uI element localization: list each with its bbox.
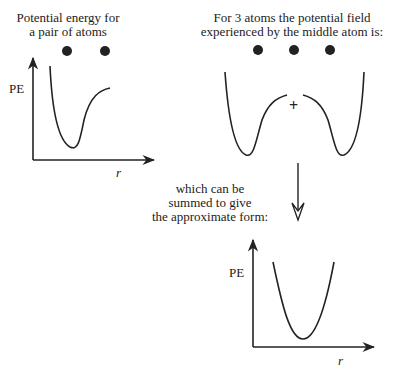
double-well-right-curve bbox=[303, 72, 364, 155]
pair-potential-curve bbox=[50, 66, 110, 148]
atom-icon bbox=[100, 46, 110, 56]
pair-atoms bbox=[62, 46, 110, 56]
diagram-graphics bbox=[0, 0, 397, 374]
atom-icon bbox=[253, 45, 263, 55]
atom-icon bbox=[325, 45, 335, 55]
double-well-left-curve bbox=[225, 72, 287, 155]
atom-icon bbox=[62, 46, 72, 56]
harmonic-well-curve bbox=[273, 262, 334, 339]
summation-arrow-icon bbox=[292, 163, 304, 220]
triple-atoms bbox=[253, 45, 335, 55]
atom-icon bbox=[289, 45, 299, 55]
